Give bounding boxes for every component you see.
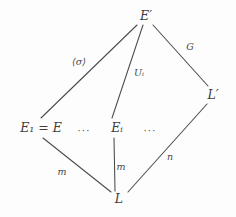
node-l-prime: L′ (207, 89, 218, 102)
lattice-diagram: E′ L′ E₁ = E Eᵢ L ··· ··· ⟨σ⟩ Uᵢ G m m n (0, 0, 236, 217)
edge-e1-to-l (43, 138, 111, 192)
edge-label-m-left: m (57, 167, 66, 177)
edge-label-m-middle: m (116, 162, 125, 172)
ellipsis-after-ei: ··· (143, 126, 156, 136)
edge-e-prime-to-e1 (41, 25, 137, 118)
edge-layer (0, 0, 236, 217)
ellipsis-between-e1-and-ei: ··· (77, 126, 90, 136)
edge-l-prime-to-l (128, 104, 207, 192)
edge-e-prime-to-l-prime (153, 25, 208, 86)
node-ei: Eᵢ (111, 122, 123, 135)
node-e-prime: E′ (140, 10, 152, 23)
edge-label-sigma: ⟨σ⟩ (72, 57, 86, 67)
node-e1-equals-e: E₁ = E (20, 122, 62, 135)
edge-label-g: G (186, 42, 194, 52)
edge-label-ui: Uᵢ (134, 68, 144, 78)
edge-ei-to-l (114, 138, 115, 191)
node-l: L (115, 193, 123, 206)
edge-label-n: n (167, 152, 173, 162)
